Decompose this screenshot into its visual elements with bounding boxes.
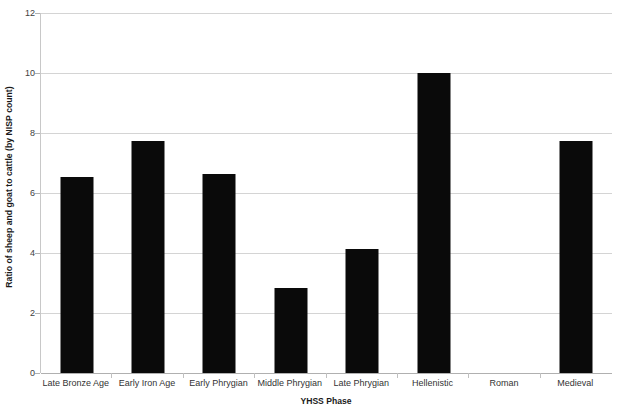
bar[interactable] [560,141,593,373]
x-axis-tick-label: Medieval [540,378,611,388]
y-axis-title-text: Ratio of sheep and goat to cattle (by NI… [4,86,14,287]
bar-slot [112,13,183,373]
x-axis-tick-label: Early Phrygian [183,378,254,388]
bar-slot [398,13,469,373]
bar[interactable] [417,73,450,373]
bar-slot [184,13,255,373]
bar-slot [255,13,326,373]
x-axis-tick-label: Late Bronze Age [40,378,111,388]
y-axis-title: Ratio of sheep and goat to cattle (by NI… [0,0,18,374]
bar[interactable] [132,141,165,374]
bar[interactable] [274,288,307,373]
x-axis-tick-label: Middle Phrygian [254,378,325,388]
bar-slot [469,13,540,373]
x-axis-tick-labels: Late Bronze AgeEarly Iron AgeEarly Phryg… [40,378,612,394]
bar[interactable] [60,177,93,374]
x-axis-title: YHSS Phase [40,396,612,406]
bar-chart: Ratio of sheep and goat to cattle (by NI… [0,0,618,414]
bar-slot [541,13,612,373]
x-axis-tick-label: Early Iron Age [111,378,182,388]
x-axis-tick-label: Hellenistic [397,378,468,388]
x-axis-tick-label: Late Phrygian [326,378,397,388]
bar-slot [327,13,398,373]
bar-slot [41,13,112,373]
x-axis-tick-label: Roman [468,378,539,388]
bars-layer [41,13,612,373]
bar[interactable] [346,249,379,373]
bar[interactable] [203,174,236,373]
plot-area [40,13,612,373]
